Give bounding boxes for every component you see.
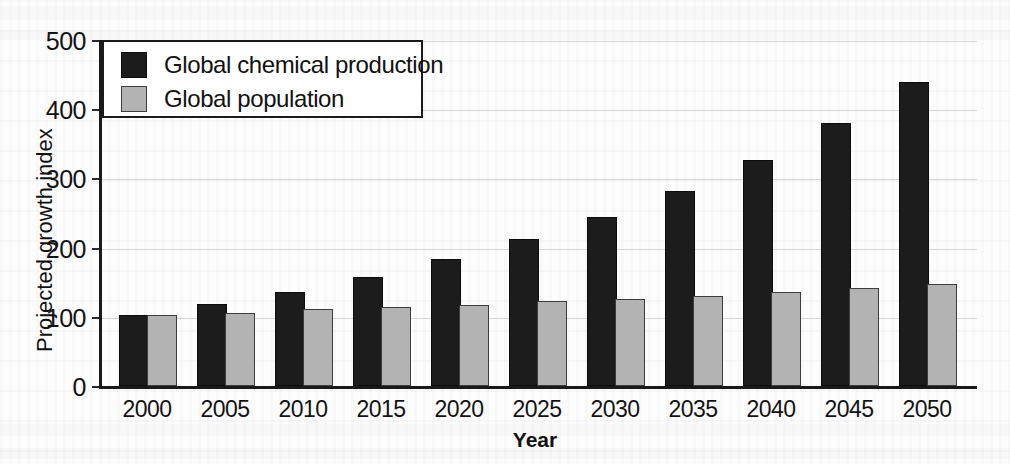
bar-2025-population bbox=[537, 301, 567, 386]
bar-2020-population bbox=[459, 305, 489, 386]
bar-2035-chemical-production bbox=[665, 191, 695, 386]
legend: Global chemical production Global popula… bbox=[102, 40, 423, 118]
bar-2000-chemical-production bbox=[119, 315, 149, 386]
bar-2045-population bbox=[849, 288, 879, 386]
bar-2050-population bbox=[927, 284, 957, 386]
x-axis-title: Year bbox=[460, 428, 610, 452]
bar-2040-population bbox=[771, 292, 801, 386]
black-square-icon bbox=[121, 52, 147, 78]
x-tick-label-2015: 2015 bbox=[338, 396, 424, 423]
bar-2010-chemical-production bbox=[275, 292, 305, 386]
gray-square-icon bbox=[121, 86, 147, 112]
projected-growth-index-bar-chart: Projected growth index 500 400 300 200 1… bbox=[0, 0, 1010, 464]
x-axis-line bbox=[99, 386, 977, 389]
x-tick-label-2020: 2020 bbox=[416, 396, 502, 423]
bar-2045-chemical-production bbox=[821, 123, 851, 386]
bar-2015-population bbox=[381, 307, 411, 386]
x-tick-label-2000: 2000 bbox=[104, 396, 190, 423]
bar-2020-chemical-production bbox=[431, 259, 461, 386]
x-tick-label-2030: 2030 bbox=[572, 396, 658, 423]
y-tick-label-200: 200 bbox=[38, 235, 86, 264]
legend-label-0: Global chemical production bbox=[164, 51, 443, 79]
legend-entry-global-population: Global population bbox=[121, 85, 344, 113]
y-tick-label-400: 400 bbox=[38, 96, 86, 125]
y-tick-label-0: 0 bbox=[38, 373, 86, 402]
bar-2005-chemical-production bbox=[197, 304, 227, 386]
bar-2010-population bbox=[303, 309, 333, 386]
x-tick-label-2045: 2045 bbox=[806, 396, 892, 423]
y-tick-label-500: 500 bbox=[38, 27, 86, 56]
bar-2030-population bbox=[615, 299, 645, 386]
legend-entry-global-chemical-production: Global chemical production bbox=[121, 51, 443, 79]
x-tick-label-2035: 2035 bbox=[650, 396, 736, 423]
x-tick-label-2040: 2040 bbox=[728, 396, 814, 423]
y-tick-label-300: 300 bbox=[38, 165, 86, 194]
x-tick-label-2050: 2050 bbox=[884, 396, 970, 423]
bar-2030-chemical-production bbox=[587, 217, 617, 386]
x-tick-label-2010: 2010 bbox=[260, 396, 346, 423]
bar-2015-chemical-production bbox=[353, 277, 383, 386]
bar-2005-population bbox=[225, 313, 255, 386]
bar-2025-chemical-production bbox=[509, 239, 539, 386]
x-tick-label-2005: 2005 bbox=[182, 396, 268, 423]
bar-2035-population bbox=[693, 296, 723, 386]
legend-label-1: Global population bbox=[164, 85, 344, 113]
y-tick-label-100: 100 bbox=[38, 304, 86, 333]
x-tick-label-2025: 2025 bbox=[494, 396, 580, 423]
bar-2000-population bbox=[147, 315, 177, 386]
bar-2040-chemical-production bbox=[743, 160, 773, 386]
bar-2050-chemical-production bbox=[899, 82, 929, 386]
